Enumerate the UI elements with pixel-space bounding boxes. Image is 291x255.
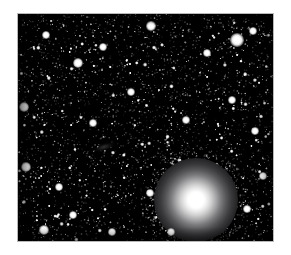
sky-background — [18, 14, 273, 241]
star-field-canvas — [18, 14, 273, 241]
page-canvas: Dense field of white stars on a black sk… — [0, 0, 291, 255]
astronomical-image-frame — [17, 13, 274, 242]
